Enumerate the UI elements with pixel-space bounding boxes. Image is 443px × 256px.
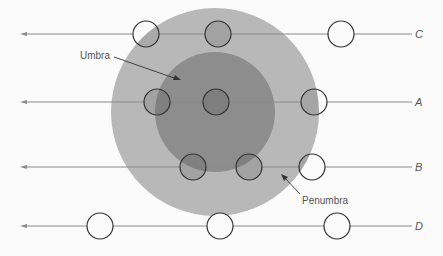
moon-a3 [301,89,327,115]
path-label-c: C [415,28,423,40]
moon-d3 [324,213,350,239]
moon-d1 [87,213,113,239]
moon-a2 [203,89,229,115]
moon-a1 [144,89,170,115]
moon-d2 [207,213,233,239]
path-label-b: B [415,161,422,173]
eclipse-diagram: Umbra Penumbra C A B D [0,0,443,256]
arrowhead-icon [20,224,27,228]
moon-b2 [236,154,262,180]
arrowhead-icon [20,100,27,104]
umbra-label: Umbra [80,50,110,61]
path-label-d: D [415,220,423,232]
moon-c2 [205,21,231,47]
path-label-a: A [414,96,422,108]
arrowhead-icon [20,165,27,169]
moon-b3 [299,154,325,180]
moon-b1 [180,154,206,180]
moon-c3 [328,21,354,47]
penumbra-label: Penumbra [302,195,349,206]
arrowhead-icon [20,32,27,36]
moon-c1 [133,21,159,47]
